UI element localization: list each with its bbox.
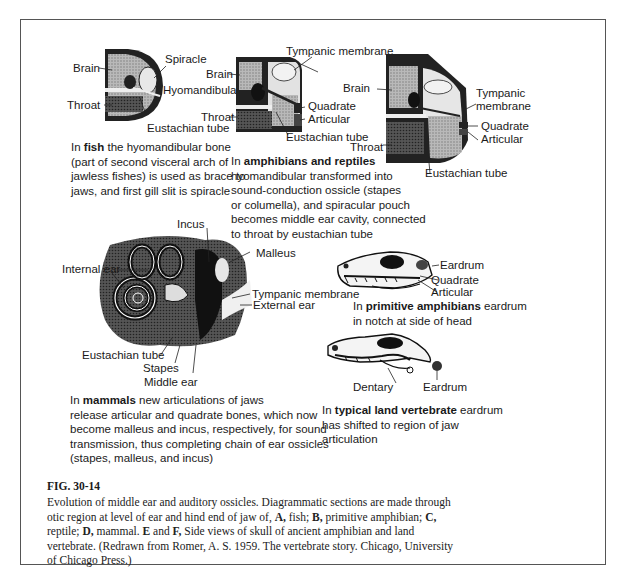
figure-caption: Evolution of middle ear and auditory oss…	[47, 495, 567, 568]
label-f-dentary: Dentary	[353, 381, 393, 394]
land-vertebrate-skull-drawing	[0, 0, 632, 579]
figure-number: FIG. 30-14	[47, 480, 100, 492]
caption-land-vertebrate: In typical land vertebrate eardrum has s…	[322, 403, 503, 447]
label-f-eardrum: Eardrum	[423, 381, 467, 394]
